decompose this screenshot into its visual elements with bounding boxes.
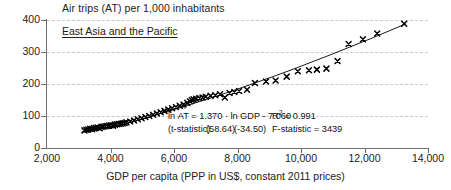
x-tick-mark bbox=[428, 148, 429, 153]
x-tick-label: 4,000 bbox=[81, 152, 141, 164]
data-point-marker bbox=[324, 66, 329, 71]
x-tick-label: 6,000 bbox=[144, 152, 204, 164]
x-tick-label: 8,000 bbox=[208, 152, 268, 164]
t-statistic-slope: (58.64) bbox=[206, 123, 234, 136]
t-statistic-label: (t-statistic) bbox=[168, 123, 206, 136]
data-point-marker bbox=[245, 87, 250, 92]
x-tick-mark bbox=[174, 148, 175, 153]
data-point-marker bbox=[252, 81, 257, 86]
at-hat-wrap: ˄AT bbox=[178, 110, 189, 123]
data-point-marker bbox=[306, 68, 311, 73]
y-tick-label: 100 bbox=[6, 109, 40, 121]
chart-figure: Air trips (AT) per 1,000 inhabitants Eas… bbox=[0, 0, 451, 190]
x-tick-label: 14,000 bbox=[398, 152, 451, 164]
data-point-marker bbox=[360, 37, 365, 42]
data-point-marker bbox=[237, 89, 242, 94]
regression-equation: ln ˄AT = 1.370 · ln GDP - 7.060 bbox=[168, 110, 272, 123]
y-tick-label: 300 bbox=[6, 45, 40, 57]
hat-accent: ˄ bbox=[181, 104, 186, 112]
r-squared: R2 = 0.991 bbox=[272, 106, 316, 123]
data-point-marker bbox=[284, 74, 289, 79]
data-point-marker bbox=[295, 69, 300, 74]
data-point-marker bbox=[264, 79, 269, 84]
x-tick-mark bbox=[238, 148, 239, 153]
data-point-marker bbox=[314, 67, 319, 72]
x-tick-mark bbox=[111, 148, 112, 153]
x-tick-label: 10,000 bbox=[271, 152, 331, 164]
r-squared-value: = 0.991 bbox=[282, 111, 315, 121]
x-axis-label: GDP per capita (PPP in US$, constant 201… bbox=[0, 170, 451, 182]
x-tick-label: 2,000 bbox=[17, 152, 77, 164]
x-tick-mark bbox=[365, 148, 366, 153]
t-statistic-row: (t-statistic) (58.64) (-34.50) F-statist… bbox=[168, 123, 342, 136]
data-point-marker bbox=[335, 58, 340, 63]
f-statistic: F-statistic = 3439 bbox=[272, 123, 342, 136]
r-squared-label: R bbox=[272, 111, 279, 121]
y-tick-label: 400 bbox=[6, 13, 40, 25]
at-symbol: AT bbox=[178, 111, 189, 121]
regression-annotation: ln ˄AT = 1.370 · ln GDP - 7.060 R2 = 0.9… bbox=[168, 106, 342, 136]
data-point-marker bbox=[273, 78, 278, 83]
data-point-marker bbox=[402, 21, 407, 26]
t-statistic-intercept: (-34.50) bbox=[234, 123, 272, 136]
data-point-marker bbox=[346, 42, 351, 47]
ln-prefix: ln bbox=[168, 111, 178, 121]
y-tick-label: 200 bbox=[6, 77, 40, 89]
x-tick-mark bbox=[301, 148, 302, 153]
y-tick-mark bbox=[41, 148, 47, 149]
regression-equation-row: ln ˄AT = 1.370 · ln GDP - 7.060 R2 = 0.9… bbox=[168, 106, 342, 123]
chart-title: Air trips (AT) per 1,000 inhabitants bbox=[62, 2, 225, 14]
x-tick-label: 12,000 bbox=[335, 152, 395, 164]
data-point-marker bbox=[375, 31, 380, 36]
